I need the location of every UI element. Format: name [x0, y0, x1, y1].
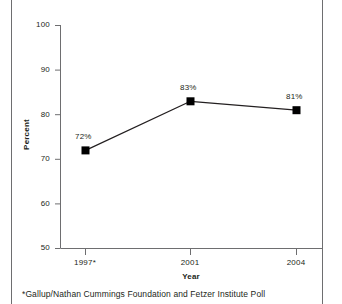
x-axis-title: Year	[161, 272, 221, 281]
data-markers	[82, 97, 301, 154]
y-tick-label-100: 100	[26, 21, 50, 29]
data-label-1997: 72%	[75, 133, 92, 141]
data-line-series-percent	[86, 101, 297, 150]
data-point-2001	[187, 97, 195, 105]
y-tick-label-90: 90	[26, 66, 50, 74]
y-tick-label-50: 50	[26, 244, 50, 252]
y-axis-title: Percent	[22, 105, 31, 165]
data-label-2004: 81%	[286, 93, 303, 101]
chart-figure: 100 90 80 70 60 50 1997* 2001 2004 Year …	[0, 0, 342, 304]
x-tick-label-2001: 2001	[160, 259, 220, 267]
data-label-2001: 83%	[180, 84, 197, 92]
y-axis-ticks	[55, 26, 61, 249]
x-axis-ticks	[86, 249, 297, 256]
x-tick-label-1997: 1997*	[55, 259, 115, 267]
x-tick-label-2004: 2004	[266, 259, 326, 267]
footnote-source: *Gallup/Nathan Cummings Foundation and F…	[22, 289, 265, 299]
y-tick-label-60: 60	[26, 200, 50, 208]
data-point-2004	[293, 106, 301, 114]
data-point-1997	[82, 146, 90, 154]
